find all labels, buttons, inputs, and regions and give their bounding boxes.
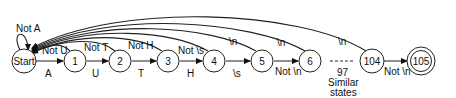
node-label: 6 [307,56,313,67]
label-not-n-104-105: Not \n [384,66,411,77]
label-not-u: Not U [42,45,68,56]
node-4: 4 [203,50,225,72]
label-not-t: Not T [84,42,108,53]
node-105-accepting: 105 [407,47,435,75]
self-loop-start [17,34,28,50]
node-label: 3 [165,56,171,67]
label-n-104: \n [338,36,346,47]
node-104: 104 [360,49,384,73]
label-n-6: \n [277,37,285,48]
node-2: 2 [109,50,131,72]
label-not-a: Not A [16,23,41,34]
node-1: 1 [64,50,86,72]
node-label: 1 [72,56,78,67]
node-label: Start [13,56,34,67]
label-u: U [92,68,99,79]
label-n-5: \n [229,36,237,47]
label-not-s: Not \s [178,45,204,56]
node-label: 5 [259,56,265,67]
label-not-n-5-6: Not \n [275,66,302,77]
node-5: 5 [251,50,273,72]
label-t: T [138,68,144,79]
node-label: 4 [211,56,217,67]
ellipsis-line2: states [330,87,357,98]
node-label: 2 [117,56,123,67]
label-h: H [187,68,194,79]
state-machine-diagram: Not A Not U Not T Not H Not \s \n \n \n … [0,0,456,98]
node-label: 105 [413,56,430,67]
label-s: \s [233,68,241,79]
label-a: A [45,68,52,79]
node-start: Start [12,49,36,73]
node-6: 6 [299,50,321,72]
label-not-h: Not H [128,40,154,51]
node-3: 3 [157,50,179,72]
node-label: 104 [364,56,381,67]
